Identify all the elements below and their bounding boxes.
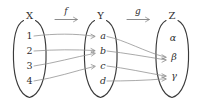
mapping-f-1-a — [34, 34, 94, 36]
function-g-label: g — [135, 6, 141, 16]
element-c-label: c — [100, 60, 106, 71]
element-b-label: b — [100, 45, 106, 56]
element-1-label: 1 — [26, 30, 32, 41]
element-beta-label: β — [170, 51, 177, 62]
element-3-label: 3 — [26, 60, 32, 71]
diagram-canvas: X Y Z f g 1 2 3 4 a b c d α β γ — [0, 0, 198, 108]
element-gamma-label: γ — [171, 70, 177, 81]
element-a-label: a — [100, 30, 106, 41]
element-4-label: 4 — [26, 75, 32, 86]
mapping-g-d-gamma — [107, 79, 165, 81]
set-z-label: Z — [169, 10, 176, 21]
element-d-label: d — [100, 75, 106, 86]
set-y-label: Y — [96, 10, 104, 21]
function-composition-diagram: X Y Z f g 1 2 3 4 a b c d α β γ — [0, 0, 198, 108]
element-2-label: 2 — [26, 45, 32, 56]
function-f-label: f — [63, 6, 69, 16]
set-x-label: X — [26, 10, 34, 21]
element-alpha-label: α — [170, 32, 177, 43]
